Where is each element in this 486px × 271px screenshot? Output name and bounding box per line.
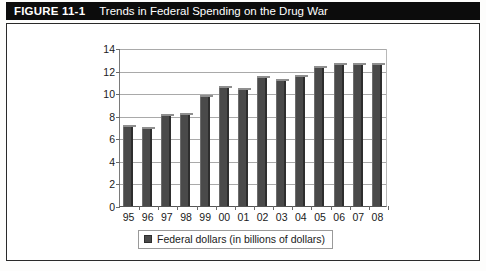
x-axis-tick-mark <box>350 206 351 210</box>
y-axis-tick-mark <box>116 94 120 95</box>
x-axis-tick-mark <box>197 206 198 210</box>
bar-top-face <box>257 76 270 78</box>
x-axis-tick-mark <box>254 206 255 210</box>
x-axis-tick-96: 96 <box>142 211 154 223</box>
bar-07 <box>353 65 363 206</box>
plot-area <box>119 49 387 207</box>
x-axis-tick-05: 05 <box>314 211 326 223</box>
x-axis-tick-mark <box>369 206 370 210</box>
y-axis-tick-8: 8 <box>109 111 115 123</box>
y-axis-tick-10: 10 <box>103 88 115 100</box>
y-axis-tick-mark <box>116 184 120 185</box>
y-axis-tick-4: 4 <box>109 156 115 168</box>
bar-slot <box>311 50 330 206</box>
bar-top-face <box>200 95 213 97</box>
x-axis-tick-mark <box>158 206 159 210</box>
y-axis-tick-12: 12 <box>103 66 115 78</box>
bar-slot <box>350 50 369 206</box>
bar-01 <box>238 90 248 206</box>
bar-top-face <box>295 75 308 77</box>
bar-slot <box>120 50 139 206</box>
x-axis-tick-02: 02 <box>257 211 269 223</box>
x-axis-tick-mark <box>273 206 274 210</box>
x-axis-tick-06: 06 <box>333 211 345 223</box>
bar-top-face <box>372 63 385 65</box>
x-axis-tick-04: 04 <box>295 211 307 223</box>
bar-slot <box>216 50 235 206</box>
x-axis-tick-99: 99 <box>199 211 211 223</box>
x-axis-tick-08: 08 <box>372 211 384 223</box>
x-axis-tick-00: 00 <box>218 211 230 223</box>
bar-slot <box>292 50 311 206</box>
x-axis-tick-mark <box>177 206 178 210</box>
bar-top-face <box>334 63 347 65</box>
bar-series-federal-dollars <box>120 50 386 206</box>
bar-02 <box>257 78 267 206</box>
bar-top-face <box>161 114 174 116</box>
bar-slot <box>235 50 254 206</box>
chart-legend: Federal dollars (in billions of dollars) <box>138 230 333 249</box>
bar-top-face <box>353 63 366 65</box>
x-axis-tick-mark <box>292 206 293 210</box>
y-axis-tick-mark <box>116 139 120 140</box>
x-axis-tick-95: 95 <box>123 211 135 223</box>
figure-number-label: FIGURE 11-1 <box>14 5 85 17</box>
legend-entry-label: Federal dollars (in billions of dollars) <box>157 233 325 245</box>
x-axis-tick-mark <box>216 206 217 210</box>
x-axis-tick-mark <box>235 206 236 210</box>
figure-page: FIGURE 11-1 Trends in Federal Spending o… <box>0 0 486 271</box>
x-axis-tick-98: 98 <box>180 211 192 223</box>
y-axis-tick-mark <box>116 207 120 208</box>
bar-95 <box>123 127 133 206</box>
figure-body-box: 02468101214 9596979899000102030405060708… <box>6 23 480 261</box>
bar-05 <box>314 68 324 206</box>
y-axis-tick-6: 6 <box>109 133 115 145</box>
y-axis-tick-2: 2 <box>109 178 115 190</box>
bar-top-face <box>276 79 289 81</box>
bar-slot <box>197 50 216 206</box>
bar-99 <box>200 97 210 206</box>
bar-96 <box>142 129 152 206</box>
bar-top-face <box>238 88 251 90</box>
y-axis-tick-labels: 02468101214 <box>93 49 115 207</box>
bar-06 <box>334 65 344 206</box>
bar-slot <box>273 50 292 206</box>
y-axis-tick-mark <box>116 162 120 163</box>
bar-slot <box>158 50 177 206</box>
x-axis-tick-97: 97 <box>161 211 173 223</box>
bar-top-face <box>142 127 155 129</box>
x-axis-tick-03: 03 <box>276 211 288 223</box>
bar-top-face <box>123 125 136 127</box>
bar-slot <box>331 50 350 206</box>
figure-header-bar: FIGURE 11-1 Trends in Federal Spending o… <box>6 2 480 20</box>
x-axis-tick-mark <box>311 206 312 210</box>
x-axis-tick-labels: 9596979899000102030405060708 <box>119 211 387 225</box>
bar-00 <box>219 88 229 207</box>
bar-top-face <box>314 66 327 68</box>
bar-97 <box>161 116 171 206</box>
x-axis-tick-mark <box>139 206 140 210</box>
y-axis-tick-mark <box>116 117 120 118</box>
y-axis-tick-0: 0 <box>109 201 115 213</box>
x-axis-tick-07: 07 <box>352 211 364 223</box>
bar-chart: 02468101214 9596979899000102030405060708… <box>7 24 481 262</box>
bar-04 <box>295 77 305 206</box>
bar-98 <box>180 115 190 206</box>
bar-slot <box>369 50 388 206</box>
bar-03 <box>276 81 286 206</box>
figure-title: Trends in Federal Spending on the Drug W… <box>99 5 328 17</box>
x-axis-tick-mark <box>331 206 332 210</box>
x-axis-tick-01: 01 <box>238 211 250 223</box>
y-axis-tick-mark <box>116 72 120 73</box>
bar-slot <box>139 50 158 206</box>
bar-top-face <box>219 86 232 88</box>
legend-swatch-icon <box>144 235 152 243</box>
y-axis-tick-mark <box>116 49 120 50</box>
bar-08 <box>372 65 382 206</box>
bar-slot <box>177 50 196 206</box>
bar-top-face <box>180 113 193 115</box>
y-axis-tick-14: 14 <box>103 43 115 55</box>
bar-slot <box>254 50 273 206</box>
x-axis-tick-mark <box>388 206 389 210</box>
